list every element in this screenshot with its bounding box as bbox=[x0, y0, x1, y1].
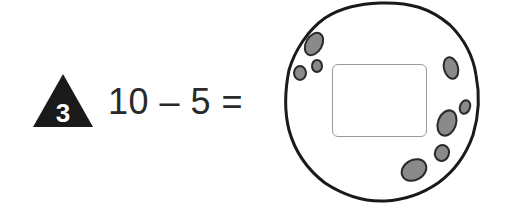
answer-input-box[interactable] bbox=[332, 64, 427, 137]
problem-number-badge: 3 bbox=[32, 72, 94, 128]
math-expression: 10 – 5 = bbox=[108, 82, 243, 122]
problem-number: 3 bbox=[56, 98, 70, 128]
